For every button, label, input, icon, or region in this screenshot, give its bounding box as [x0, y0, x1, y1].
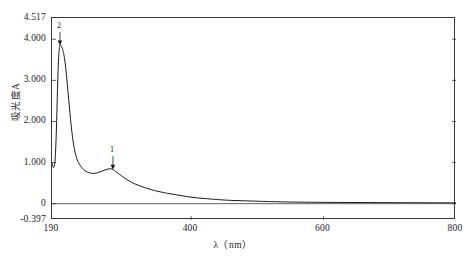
x-tick-label: 600	[315, 223, 330, 234]
x-axis-tick-labels: 190400600800	[0, 0, 466, 259]
peak-label-1: 1	[110, 146, 114, 154]
x-tick-label: 800	[448, 223, 463, 234]
y-axis-title: 吸光度A	[8, 67, 22, 137]
x-tick-label: 400	[183, 223, 198, 234]
x-tick-label: 190	[44, 223, 59, 234]
x-axis-title: λ（nm）	[0, 237, 466, 251]
peak-label-2: 2	[57, 22, 61, 30]
chart-figure: 4.5174.0003.0002.0001.0000-0.397 1904006…	[0, 0, 466, 259]
